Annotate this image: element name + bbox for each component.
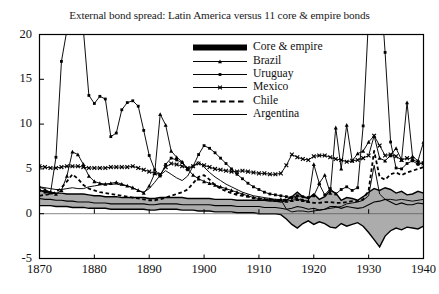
- y-tick-label: 10: [2, 116, 32, 131]
- legend-swatch-line-marker-dot-icon: [193, 67, 249, 80]
- series-core-empire: [40, 188, 424, 247]
- legend-label: Mexico: [249, 80, 288, 93]
- x-tick-label: 1870: [17, 262, 63, 277]
- x-tick-label: 1910: [236, 262, 282, 277]
- x-tick-label: 1930: [346, 262, 392, 277]
- legend-item-chile[interactable]: Chile: [193, 94, 343, 107]
- legend-label: Uruguay: [249, 67, 294, 80]
- legend-swatch-plain-icon: [193, 107, 249, 120]
- legend-item-core-empire[interactable]: Core & empire: [193, 40, 343, 53]
- chart-legend: Core & empireBrazilUruguayMexicoChileArg…: [193, 40, 343, 120]
- legend-swatch-dashed-icon: [193, 94, 249, 107]
- legend-swatch-line-marker-triangle-icon: [193, 54, 249, 67]
- y-tick-label: 5: [2, 161, 32, 176]
- legend-item-brazil[interactable]: Brazil: [193, 53, 343, 66]
- legend-item-argentina[interactable]: Argentina: [193, 107, 343, 120]
- legend-label: Chile: [249, 94, 278, 107]
- legend-item-mexico[interactable]: Mexico: [193, 80, 343, 93]
- x-tick-label: 1940: [401, 262, 439, 277]
- y-tick-label: 15: [2, 71, 32, 86]
- chart-figure: External bond spread: Latin America vers…: [0, 0, 439, 294]
- y-tick-label: 20: [2, 27, 32, 42]
- legend-swatch-thick-black-bar-icon: [193, 40, 249, 53]
- legend-swatch-line-marker-x-icon: [193, 80, 249, 93]
- x-tick-label: 1880: [71, 262, 117, 277]
- legend-label: Brazil: [249, 54, 281, 67]
- x-tick-label: 1890: [126, 262, 172, 277]
- x-tick-label: 1920: [291, 262, 337, 277]
- legend-label: Argentina: [249, 107, 299, 120]
- legend-item-uruguay[interactable]: Uruguay: [193, 67, 343, 80]
- y-tick-label: 0: [2, 206, 32, 221]
- legend-label: Core & empire: [249, 40, 323, 53]
- x-tick-label: 1900: [181, 262, 227, 277]
